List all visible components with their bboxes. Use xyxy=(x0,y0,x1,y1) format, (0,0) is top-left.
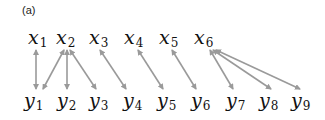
node-variable: y xyxy=(57,89,68,111)
node-x1: x1 xyxy=(28,28,47,49)
node-y6: y6 xyxy=(191,91,210,112)
node-subscript: 4 xyxy=(136,36,144,50)
edge-x3-y4-arrow-icon xyxy=(100,50,126,89)
node-subscript: 9 xyxy=(303,99,311,113)
edge-x2-y1-arrow-icon xyxy=(43,50,64,89)
edge-x5-y6-arrow-icon xyxy=(172,50,196,89)
node-variable: x xyxy=(159,26,170,48)
node-subscript: 4 xyxy=(135,99,143,113)
node-variable: y xyxy=(191,89,202,111)
node-subscript: 6 xyxy=(203,99,211,113)
node-subscript: 2 xyxy=(68,36,76,50)
node-variable: y xyxy=(89,89,100,111)
node-variable: x xyxy=(56,26,67,48)
edge-x2-y3-arrow-icon xyxy=(70,50,96,89)
node-subscript: 7 xyxy=(238,99,246,113)
node-y8: y8 xyxy=(259,91,278,112)
node-y5: y5 xyxy=(157,91,176,112)
node-y7: y7 xyxy=(226,91,245,112)
node-x2: x2 xyxy=(56,28,75,49)
node-subscript: 6 xyxy=(206,36,214,50)
node-subscript: 3 xyxy=(101,36,109,50)
node-variable: y xyxy=(226,89,237,111)
node-y4: y4 xyxy=(123,91,142,112)
node-y1: y1 xyxy=(24,91,43,112)
node-variable: y xyxy=(259,89,270,111)
node-variable: x xyxy=(194,26,205,48)
edge-x4-y5-arrow-icon xyxy=(138,50,163,89)
node-subscript: 5 xyxy=(169,99,177,113)
node-y9: y9 xyxy=(291,91,310,112)
edge-x6-y9-arrow-icon xyxy=(216,50,300,89)
node-x4: x4 xyxy=(124,28,143,49)
node-x3: x3 xyxy=(89,28,108,49)
node-variable: x xyxy=(89,26,100,48)
node-variable: y xyxy=(123,89,134,111)
node-y3: y3 xyxy=(89,91,108,112)
node-y2: y2 xyxy=(57,91,76,112)
node-subscript: 5 xyxy=(171,36,179,50)
node-x6: x6 xyxy=(194,28,213,49)
node-variable: y xyxy=(24,89,35,111)
node-subscript: 3 xyxy=(101,99,109,113)
node-subscript: 8 xyxy=(271,99,279,113)
node-variable: y xyxy=(157,89,168,111)
node-variable: y xyxy=(291,89,302,111)
node-variable: x xyxy=(124,26,135,48)
node-subscript: 2 xyxy=(69,99,77,113)
node-subscript: 1 xyxy=(40,36,48,50)
node-variable: x xyxy=(28,26,39,48)
node-subscript: 1 xyxy=(36,99,44,113)
node-x5: x5 xyxy=(159,28,178,49)
